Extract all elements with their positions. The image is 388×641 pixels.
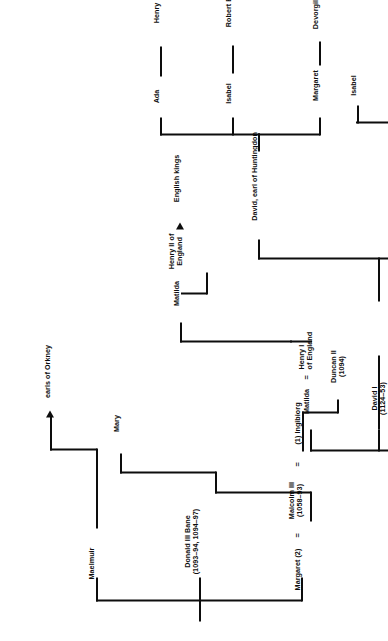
person-henry2: Henry II of England (168, 233, 184, 269)
connector (120, 471, 216, 473)
person-ingibiorg: (1) Ingibiorg (294, 402, 302, 444)
connector (180, 322, 182, 342)
connector (181, 292, 207, 294)
connector (50, 448, 97, 450)
connector (120, 453, 122, 473)
connector (378, 429, 380, 451)
connector (50, 416, 52, 450)
connector (160, 117, 162, 135)
marriage-symbol: = (293, 533, 302, 537)
connector (206, 272, 208, 294)
genealogy-chart: Maelmuir Donald III Bane (1093–94, 1094–… (0, 0, 388, 641)
person-matilda: Matilda (303, 388, 311, 413)
marriage-symbol: = (293, 462, 302, 466)
connector (258, 133, 260, 151)
person-donald3: Donald III Bane (1093–94, 1094–97) (184, 508, 200, 574)
connector (160, 133, 260, 135)
person-mary: Mary (113, 415, 121, 432)
person-malcolm3: Malcolm III (1058–93) (288, 481, 304, 518)
connector (180, 340, 292, 342)
person-matilda-empress: Matilda (173, 280, 181, 305)
connector (258, 239, 260, 259)
connector (319, 41, 321, 65)
person-maelmuir: Maelmuir (88, 547, 96, 579)
person-margaret2: Margaret (2) (294, 548, 302, 590)
connector (96, 577, 98, 601)
arrow-icon (176, 222, 184, 229)
person-devorgilla: Devorgilla (312, 0, 320, 29)
person-duncan2: Duncan II (1094) (330, 350, 346, 383)
connector (258, 133, 320, 135)
chart-canvas: Maelmuir Donald III Bane (1093–94, 1094–… (0, 0, 388, 641)
connector (160, 46, 162, 76)
connector (258, 257, 388, 259)
arrow-icon (46, 410, 54, 417)
person-isabel-d: Isabel (225, 83, 233, 104)
person-margaret-d: Margaret (312, 70, 320, 101)
label-english-kings: English kings (173, 154, 181, 201)
person-isabel-w: Isabel (350, 75, 358, 96)
connector (357, 105, 359, 123)
person-henry-hastings: Henry Hastings (153, 0, 161, 23)
connector (356, 121, 388, 123)
connector (302, 411, 304, 451)
connector (290, 340, 312, 342)
marriage-symbol: = (302, 375, 311, 379)
connector (96, 448, 98, 528)
connector (378, 257, 380, 301)
person-robert-bruce-sr: Robert BRUCE (225, 0, 233, 27)
person-henry1: Henry I of England (298, 331, 314, 369)
connector (378, 355, 380, 429)
connector (199, 600, 201, 621)
connector (215, 491, 311, 493)
connector (199, 577, 201, 601)
connector (232, 45, 234, 73)
connector (310, 491, 312, 521)
connector (310, 429, 312, 451)
connector (310, 449, 388, 451)
person-ada: Ada (153, 89, 161, 103)
connector (319, 117, 321, 135)
connector (232, 117, 234, 135)
label-earls-of-orkney: earls of Orkney (44, 344, 52, 397)
connector (337, 399, 339, 413)
connector (215, 471, 217, 493)
